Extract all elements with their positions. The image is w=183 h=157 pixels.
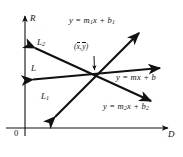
equation-upper-lhs: y = m xyxy=(69,15,90,25)
equation-lower-mid: x + b xyxy=(127,101,146,111)
line-label-L: L xyxy=(31,64,36,73)
equation-lower-lhs: y = m xyxy=(103,101,124,111)
intersection-point-label: (x, y) xyxy=(74,42,88,51)
equation-middle: y = mx + b xyxy=(116,73,156,82)
origin-label: 0 xyxy=(14,129,18,138)
figure-canvas: R D 0 L2 L L1 (x, y) y = m1x + b1 y = mx… xyxy=(0,0,183,157)
line-label-L2-sub: 2 xyxy=(42,41,45,47)
point-callout-arrow xyxy=(94,56,95,70)
line-label-L2: L2 xyxy=(37,38,45,47)
axis-label-vertical: R xyxy=(30,14,36,23)
equation-lower: y = m2x + b2 xyxy=(103,102,149,112)
axis-label-horizontal: D xyxy=(168,130,175,139)
equation-upper-mid: x + b xyxy=(93,15,112,25)
line-label-L1: L1 xyxy=(41,92,49,101)
line-label-L1-sub: 1 xyxy=(46,95,49,101)
equation-upper: y = m1x + b1 xyxy=(69,16,115,26)
equation-lower-sub2: 2 xyxy=(146,105,149,111)
paren-close: ) xyxy=(86,42,89,51)
equation-upper-sub2: 1 xyxy=(112,19,115,25)
